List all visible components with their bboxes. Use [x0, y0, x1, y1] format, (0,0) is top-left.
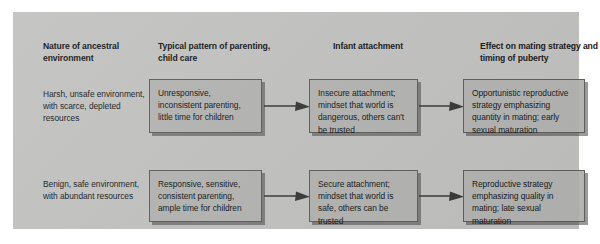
arrow-harsh-parenting-to-attachment	[264, 100, 310, 112]
column-header-environment: Nature of ancestral environment	[43, 41, 153, 64]
box-harsh-attachment: Insecure attachment; mindset that world …	[309, 79, 418, 133]
box-harsh-mating-strategy: Opportunistic reproductive strategy emph…	[463, 79, 585, 133]
arrow-harsh-attachment-to-mating	[419, 100, 464, 112]
box-benign-mating-strategy-text: Reproductive strategy emphasizing qualit…	[472, 178, 576, 227]
environment-label-benign: Benign, safe environment, with abundant …	[43, 178, 151, 202]
box-harsh-parenting-text: Unresponsive, inconsistent parenting, li…	[158, 87, 253, 124]
environment-label-harsh: Harsh, unsafe environment, with scarce, …	[43, 88, 151, 125]
column-header-attachment: Infant attachment	[333, 41, 453, 53]
box-harsh-attachment-text: Insecure attachment; mindset that world …	[318, 87, 409, 136]
box-harsh-mating-strategy-text: Opportunistic reproductive strategy emph…	[472, 87, 576, 136]
arrow-benign-attachment-to-mating	[419, 190, 464, 202]
arrow-benign-parenting-to-attachment	[264, 190, 310, 202]
box-harsh-parenting: Unresponsive, inconsistent parenting, li…	[149, 79, 262, 133]
column-header-parenting: Typical pattern of parenting, child care	[158, 41, 278, 64]
box-benign-parenting-text: Responsive, sensitive, consistent parent…	[158, 178, 253, 215]
box-benign-attachment: Secure attachment; mindset that world is…	[309, 170, 418, 222]
box-benign-parenting: Responsive, sensitive, consistent parent…	[149, 170, 262, 222]
box-benign-mating-strategy: Reproductive strategy emphasizing qualit…	[463, 170, 585, 222]
diagram-panel: Nature of ancestral environment Typical …	[13, 12, 579, 229]
box-benign-attachment-text: Secure attachment; mindset that world is…	[318, 178, 409, 227]
column-header-mating-strategy: Effect on mating strategy and timing of …	[480, 41, 600, 64]
